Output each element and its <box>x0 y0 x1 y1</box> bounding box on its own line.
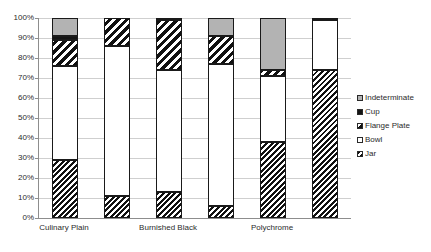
gridline <box>39 18 351 19</box>
legend-swatch-icon <box>357 109 363 115</box>
gridline <box>39 178 351 179</box>
bar-column <box>312 18 338 218</box>
bar-segment-indeterminate <box>260 18 286 70</box>
bar-segment-bowl <box>312 20 338 70</box>
y-axis-tick <box>35 78 39 79</box>
legend-label: Bowl <box>365 136 382 144</box>
y-axis-tick <box>35 118 39 119</box>
bar-column <box>104 18 130 218</box>
bar-segment-jar <box>208 206 234 218</box>
y-axis-tick-label: 40% <box>18 134 34 142</box>
y-axis-tick-label: 10% <box>18 194 34 202</box>
y-axis-tick <box>35 138 39 139</box>
legend-item: Cup <box>357 105 414 119</box>
x-axis-category-label: Polychrome <box>251 224 293 232</box>
bar-column <box>208 18 234 218</box>
bar-segment-indeterminate <box>52 18 78 36</box>
legend-label: Cup <box>365 108 380 116</box>
legend-item: Jar <box>357 147 414 161</box>
y-axis-tick-label: 0% <box>22 214 34 222</box>
bar-segment-jar <box>260 142 286 218</box>
gridline <box>39 158 351 159</box>
bar-segment-flange-plate <box>104 18 130 46</box>
y-axis-tick <box>35 18 39 19</box>
bar-segment-bowl <box>52 66 78 160</box>
legend-item: Flange Plate <box>357 119 414 133</box>
bar-segment-bowl <box>156 70 182 192</box>
legend-label: Flange Plate <box>365 122 410 130</box>
legend-label: Jar <box>365 150 376 158</box>
gridline <box>39 98 351 99</box>
bar-segment-bowl <box>260 76 286 142</box>
bar-segment-flange-plate <box>156 20 182 70</box>
bar-segment-indeterminate <box>208 18 234 36</box>
y-axis-tick-label: 50% <box>18 114 34 122</box>
bar-segment-flange-plate <box>260 70 286 76</box>
legend-item: Indeterminate <box>357 91 414 105</box>
bar-segment-cup <box>52 36 78 40</box>
gridline <box>39 78 351 79</box>
legend-swatch-icon <box>357 95 363 101</box>
x-axis-category-label: Burnished Black <box>139 224 197 232</box>
y-axis-tick-label: 100% <box>14 14 34 22</box>
y-axis-tick <box>35 178 39 179</box>
legend-label: Indeterminate <box>365 94 414 102</box>
y-axis-tick <box>35 58 39 59</box>
y-axis-tick <box>35 38 39 39</box>
bar-column <box>52 18 78 218</box>
bar-segment-flange-plate <box>52 40 78 66</box>
legend-swatch-icon <box>357 151 363 157</box>
gridline <box>39 118 351 119</box>
y-axis-tick-label: 30% <box>18 154 34 162</box>
y-axis-tick <box>35 158 39 159</box>
y-axis-tick <box>35 198 39 199</box>
bar-segment-bowl <box>104 46 130 196</box>
y-axis-tick-label: 60% <box>18 94 34 102</box>
y-axis-tick-label: 80% <box>18 54 34 62</box>
y-axis-tick-label: 70% <box>18 74 34 82</box>
bar-column <box>260 18 286 218</box>
bar-segment-flange-plate <box>208 36 234 64</box>
bar-segment-jar <box>52 160 78 218</box>
bar-column <box>156 18 182 218</box>
bar-segment-jar <box>104 196 130 218</box>
gridline <box>39 138 351 139</box>
bar-segment-jar <box>312 70 338 218</box>
legend-swatch-icon <box>357 137 363 143</box>
bar-segment-cup <box>156 18 182 20</box>
gridline <box>39 58 351 59</box>
chart-legend: IndeterminateCupFlange PlateBowlJar <box>357 91 414 161</box>
legend-swatch-icon <box>357 123 363 129</box>
y-axis-tick-label: 90% <box>18 34 34 42</box>
y-axis-tick <box>35 218 39 219</box>
x-axis-category-label: Culinary Plain <box>39 224 88 232</box>
gridline <box>39 38 351 39</box>
legend-item: Bowl <box>357 133 414 147</box>
bar-segment-bowl <box>208 64 234 206</box>
gridline <box>39 198 351 199</box>
stacked-bar-chart: 0%10%20%30%40%50%60%70%80%90%100% Culina… <box>0 0 431 252</box>
plot-area: 0%10%20%30%40%50%60%70%80%90%100% <box>38 18 351 219</box>
y-axis-tick-label: 20% <box>18 174 34 182</box>
bar-segment-cup <box>312 18 338 20</box>
bar-segment-jar <box>156 192 182 218</box>
y-axis-tick <box>35 98 39 99</box>
